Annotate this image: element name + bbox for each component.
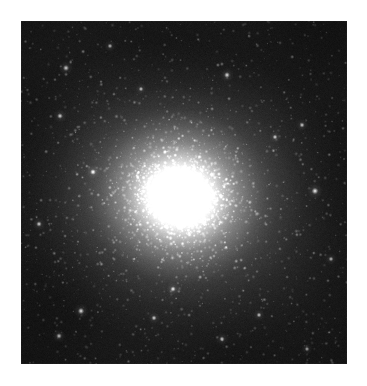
figure-caption xyxy=(21,366,347,384)
astronomical-plate xyxy=(21,21,347,364)
figure-root: globular star cluster grayscale photogra… xyxy=(0,0,367,386)
globular-cluster-image xyxy=(21,21,347,364)
